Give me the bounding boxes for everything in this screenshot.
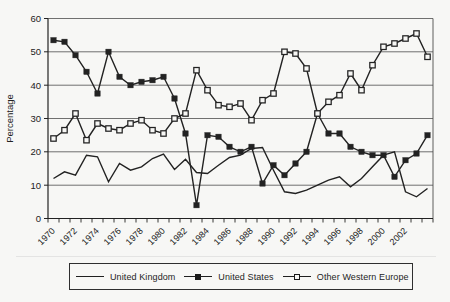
legend-label-other-western-europe: Other Western Europe [317,272,409,282]
marker-open-square [95,121,100,126]
x-tick-label: 1994 [300,226,321,247]
y-tick-label: 50 [30,46,41,57]
filled-square-marker-icon [195,274,201,280]
y-tick-label: 20 [30,146,41,157]
marker-open-square [183,111,188,116]
marker-open-square [106,126,111,131]
x-tick-label: 1988 [234,226,255,247]
legend-swatch-other-western-europe [283,272,311,281]
marker-filled-square [238,149,243,154]
marker-filled-square [51,38,56,43]
strike-percentage-figure: 0102030405060197019721974197619781980198… [0,0,450,302]
marker-open-square [337,93,342,98]
legend-label-united-states: United States [218,272,273,282]
x-tick-label: 1990 [256,226,277,247]
marker-filled-square [106,49,111,54]
marker-open-square [326,99,331,104]
marker-open-square [238,101,243,106]
x-tick-label: 1984 [190,226,211,247]
marker-open-square [304,66,309,71]
marker-open-square [414,31,419,36]
marker-open-square [293,51,298,56]
marker-open-square [216,103,221,108]
x-tick-label: 1986 [212,226,233,247]
marker-filled-square [271,163,276,168]
marker-open-square [403,36,408,41]
marker-open-square [62,128,67,133]
marker-filled-square [403,158,408,163]
line-swatch-icon [76,276,104,278]
legend-label-united-kingdom: United Kingdom [110,272,175,282]
x-tick-label: 1996 [322,226,343,247]
x-tick-label: 1982 [168,226,189,247]
scan-artifact-line [16,256,436,257]
marker-open-square [227,104,232,109]
legend-swatch-united-kingdom [76,272,104,281]
legend-item-united-kingdom: United Kingdom [76,272,173,282]
x-tick-label: 2002 [388,226,409,247]
marker-filled-square [139,79,144,84]
marker-open-square [194,68,199,73]
marker-filled-square [337,131,342,136]
marker-filled-square [381,153,386,158]
x-tick-label: 1980 [146,226,167,247]
marker-filled-square [282,173,287,178]
marker-filled-square [227,144,232,149]
legend-swatch-united-states [184,272,212,281]
open-square-marker-icon [294,274,300,280]
marker-open-square [128,121,133,126]
marker-filled-square [117,74,122,79]
marker-open-square [260,98,265,103]
x-tick-label: 1992 [278,226,299,247]
marker-open-square [359,88,364,93]
marker-filled-square [62,39,67,44]
marker-open-square [271,91,276,96]
marker-filled-square [260,181,265,186]
marker-open-square [117,128,122,133]
marker-open-square [172,116,177,121]
series-other-western-europe [51,31,430,143]
marker-filled-square [84,69,89,74]
marker-filled-square [73,53,78,58]
x-tick-label: 1972 [58,226,79,247]
marker-filled-square [183,131,188,136]
y-tick-label: 40 [30,80,41,91]
marker-open-square [150,128,155,133]
marker-open-square [139,118,144,123]
marker-filled-square [326,131,331,136]
marker-open-square [381,44,386,49]
marker-open-square [249,118,254,123]
y-tick-label: 30 [30,113,41,124]
marker-open-square [315,111,320,116]
marker-open-square [161,131,166,136]
marker-open-square [425,54,430,59]
marker-filled-square [392,174,397,179]
marker-filled-square [348,144,353,149]
marker-open-square [370,63,375,68]
x-tick-label: 1974 [80,226,101,247]
marker-filled-square [425,133,430,138]
marker-filled-square [359,149,364,154]
legend-item-other-western-europe: Other Western Europe [283,272,406,282]
marker-filled-square [216,134,221,139]
marker-filled-square [370,153,375,158]
marker-open-square [51,136,56,141]
x-tick-label: 2000 [366,226,387,247]
x-tick-label: 1976 [102,226,123,247]
marker-filled-square [194,203,199,208]
marker-filled-square [150,78,155,83]
marker-open-square [205,88,210,93]
marker-open-square [282,49,287,54]
marker-filled-square [414,151,419,156]
marker-filled-square [293,161,298,166]
marker-open-square [392,41,397,46]
marker-filled-square [249,144,254,149]
marker-open-square [348,71,353,76]
marker-open-square [84,138,89,143]
marker-filled-square [304,149,309,154]
x-tick-label: 1970 [36,226,57,247]
marker-filled-square [172,96,177,101]
y-tick-label: 60 [30,13,41,24]
marker-filled-square [205,133,210,138]
marker-filled-square [128,83,133,88]
